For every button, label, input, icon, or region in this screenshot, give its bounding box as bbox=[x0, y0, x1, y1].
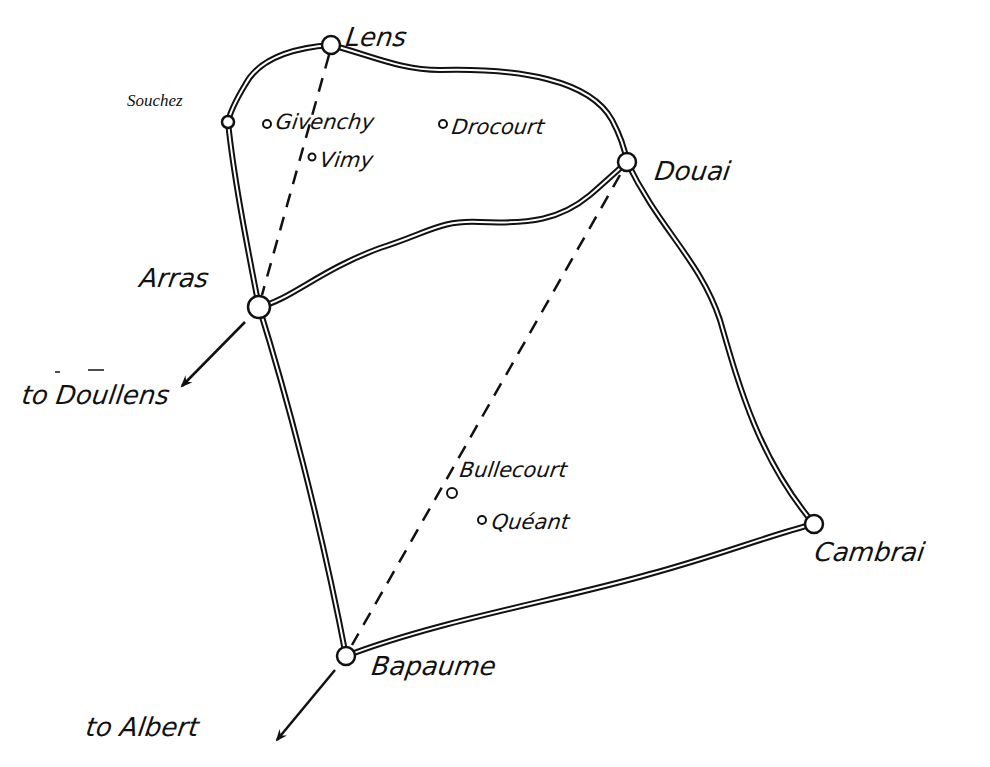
village-markers bbox=[263, 120, 486, 524]
road-douai-cambrai bbox=[627, 162, 814, 524]
label-bapaume: Bapaume bbox=[370, 651, 498, 681]
town-marker-bapaume bbox=[337, 647, 355, 665]
label-arras: Arras bbox=[138, 263, 211, 293]
arrows bbox=[182, 322, 335, 740]
arrow-to-albert bbox=[277, 670, 335, 740]
label-to-doullens: to Doullens bbox=[20, 380, 171, 410]
label-bullecourt: Bullecourt bbox=[458, 458, 568, 482]
town-marker-lens bbox=[322, 36, 340, 54]
dashed-lines bbox=[262, 55, 620, 645]
label-douai: Douai bbox=[653, 156, 733, 186]
village-marker-queant bbox=[478, 516, 486, 524]
label-to-albert: to Albert bbox=[84, 712, 201, 742]
village-marker-vimy bbox=[309, 154, 316, 161]
label-drocourt: Drocourt bbox=[450, 115, 546, 139]
road-arras-douai bbox=[259, 162, 627, 307]
road-lens-douai bbox=[331, 45, 627, 162]
dashed-line-lens-arras bbox=[262, 55, 329, 295]
label-lens: Lens bbox=[344, 22, 409, 52]
village-marker-drocourt bbox=[439, 120, 447, 128]
village-marker-bullecourt bbox=[447, 488, 457, 498]
road-arras-bapaume bbox=[259, 307, 346, 656]
village-marker-givenchy bbox=[263, 120, 271, 128]
town-marker-douai bbox=[618, 153, 636, 171]
road-bapaume-cambrai bbox=[346, 524, 814, 656]
town-marker-cambrai bbox=[805, 515, 823, 533]
town-marker-souchez bbox=[222, 116, 234, 128]
label-souchez: Souchez bbox=[127, 91, 183, 111]
scan-marks bbox=[55, 370, 104, 372]
label-givenchy: Givenchy bbox=[274, 110, 375, 134]
label-queant: Quéant bbox=[490, 510, 571, 534]
town-marker-arras bbox=[248, 296, 270, 318]
label-vimy: Vimy bbox=[318, 148, 374, 172]
arrow-to-doullens bbox=[182, 322, 245, 386]
label-cambrai: Cambrai bbox=[813, 537, 927, 567]
